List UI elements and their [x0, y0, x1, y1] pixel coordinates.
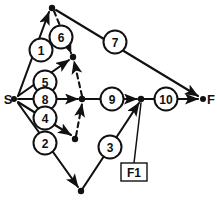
activity-label-6: 6: [58, 31, 65, 45]
activity-label-1: 1: [38, 44, 45, 58]
event-node-upper-mid: [70, 54, 76, 60]
event-node-right: [138, 96, 144, 102]
activity-label-9: 9: [109, 93, 116, 107]
activity-marker-9[interactable]: 9: [101, 88, 124, 111]
activity-marker-1[interactable]: 1: [30, 39, 53, 62]
activity-marker-3[interactable]: 3: [99, 136, 122, 159]
callout-label-f1: F1: [127, 166, 141, 180]
start-node-label: S: [4, 92, 13, 107]
activity-label-8: 8: [42, 93, 49, 107]
event-node-top: [49, 5, 55, 11]
event-node-finish: [200, 96, 206, 102]
edge-top-to-f: [56, 10, 198, 96]
activity-label-3: 3: [107, 141, 114, 155]
callout-pointer-line: [134, 103, 141, 163]
activity-marker-7[interactable]: 7: [104, 31, 127, 54]
edge-dashed-lower-left-to-center: [76, 104, 82, 136]
finish-node-label: F: [207, 92, 215, 107]
activity-marker-2[interactable]: 2: [34, 132, 57, 155]
network-diagram: S F 1 6 7 5 8 4 2: [0, 0, 217, 200]
activity-marker-10[interactable]: 10: [155, 88, 178, 111]
activity-marker-4[interactable]: 4: [34, 107, 57, 130]
event-node-center: [79, 96, 85, 102]
activity-label-2: 2: [42, 137, 49, 151]
event-node-lower-left: [72, 136, 78, 142]
event-node-bottom: [78, 188, 84, 194]
activity-label-4: 4: [42, 112, 49, 126]
activity-label-7: 7: [112, 36, 119, 50]
network-diagram-canvas: S F 1 6 7 5 8 4 2: [0, 0, 217, 200]
edge-dashed-center-to-upper-mid: [74, 61, 82, 96]
activity-marker-6[interactable]: 6: [50, 26, 73, 49]
activity-label-10: 10: [159, 93, 173, 107]
